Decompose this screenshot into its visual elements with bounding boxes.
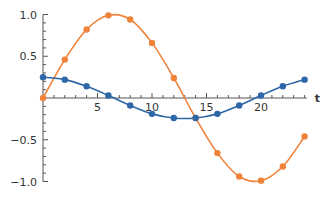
y-tick-label: −0.5 [10, 134, 37, 147]
data-point-blue [171, 115, 177, 121]
data-point-orange [258, 177, 264, 183]
data-point-orange [214, 150, 220, 156]
data-point-blue [280, 83, 286, 89]
data-point-orange [62, 56, 68, 62]
axes: 1.00.5−0.5−1.05101520t [10, 9, 320, 189]
data-point-blue [192, 115, 198, 121]
data-point-orange [83, 26, 89, 32]
data-point-orange [236, 173, 242, 179]
x-tick-label: 20 [254, 101, 268, 114]
y-tick-label: −1.0 [10, 176, 37, 189]
data-point-orange [171, 75, 177, 81]
data-point-blue [105, 92, 111, 98]
data-point-blue [258, 92, 264, 98]
y-tick-label: 1.0 [20, 9, 38, 22]
data-point-orange [105, 12, 111, 18]
data-point-blue [214, 111, 220, 117]
data-point-orange [149, 40, 155, 46]
data-point-blue [127, 102, 133, 108]
data-point-orange [301, 133, 307, 139]
data-point-blue [149, 111, 155, 117]
data-point-blue [301, 76, 307, 82]
data-point-orange [40, 95, 46, 101]
data-point-orange [127, 16, 133, 22]
data-point-blue [40, 74, 46, 80]
data-point-blue [62, 76, 68, 82]
data-point-blue [83, 83, 89, 89]
x-tick-label: 5 [94, 101, 101, 114]
y-tick-label: 0.5 [20, 50, 38, 63]
x-axis-label: t [315, 92, 320, 105]
x-tick-label: 15 [200, 101, 214, 114]
data-point-blue [236, 102, 242, 108]
data-point-orange [280, 163, 286, 169]
line-chart: 1.00.5−0.5−1.05101520t [0, 0, 335, 198]
